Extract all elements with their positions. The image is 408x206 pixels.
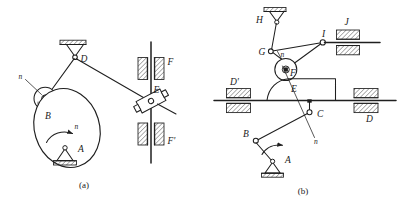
label-b-guide-d: D [365, 114, 373, 124]
link-c-b [258, 114, 308, 141]
diagram-page: D B A E F F' n n (a) [0, 0, 408, 206]
label-b-joint-i: I [321, 29, 326, 39]
normal-line-upper-a [26, 80, 42, 95]
link-d-e [76, 59, 146, 99]
label-a-pivot-d: D [80, 54, 88, 64]
label-a-roller-b: B [45, 111, 51, 121]
ground-pivot-a-b [262, 159, 284, 177]
pin-block-c [307, 99, 311, 102]
label-b-joint-g: G [259, 47, 266, 57]
label-a-pivot-a: A [77, 144, 84, 154]
ground-support-h [264, 8, 286, 25]
caption-figure-a: (a) [79, 180, 89, 190]
label-a-guide-f: F [167, 57, 174, 67]
label-b-joint-b: B [243, 129, 249, 139]
label-b-pivot-a: A [284, 155, 291, 165]
figure-b-group: H G I J F E D' D C B A n n (b) [214, 8, 396, 197]
label-b-pivot-h: H [255, 15, 264, 25]
label-b-guide-d-prime: D' [229, 77, 240, 87]
label-b-point-e: E [290, 84, 297, 94]
mechanism-diagram-svg: D B A E F F' n n (a) [0, 0, 408, 206]
label-b-roller-f: F [289, 68, 296, 78]
label-a-guide-f-prime: F' [167, 136, 177, 146]
link-h-g [272, 24, 277, 51]
label-a-slider-e: E [153, 85, 160, 95]
slider-tail-a [158, 104, 177, 114]
figure-a-group: D B A E F F' n n (a) [19, 40, 177, 190]
cam-plate-b [267, 79, 336, 101]
label-a-normal-lower: n [75, 122, 79, 131]
label-b-joint-c: C [317, 109, 324, 119]
label-b-normal-lower: n [314, 137, 318, 146]
label-b-normal-upper: n [281, 50, 285, 59]
label-a-normal-upper: n [19, 72, 23, 81]
joint-g [268, 49, 273, 54]
caption-figure-b: (b) [298, 186, 309, 196]
label-b-guide-j: J [345, 17, 350, 27]
